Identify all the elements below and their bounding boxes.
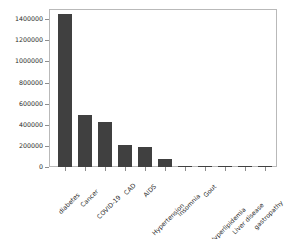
plot-area: [50, 10, 276, 167]
bar-aids: [138, 147, 152, 167]
bar-cad: [118, 145, 132, 167]
x-tick-mark: [145, 167, 146, 171]
x-tick-label-cancer: Cancer: [79, 188, 100, 209]
x-tick-mark: [205, 167, 206, 171]
x-tick-mark: [125, 167, 126, 171]
y-tick-label: 1400000: [15, 16, 43, 22]
y-tick-label: 800000: [19, 80, 43, 86]
x-tick-label-covid-19: COVID-19: [95, 194, 122, 221]
x-tick-mark: [245, 167, 246, 171]
x-tick-label-cad: CAD: [122, 182, 137, 197]
x-tick-mark: [105, 167, 106, 171]
bar-covid-19: [98, 122, 112, 167]
y-tick-label: 1200000: [15, 37, 43, 43]
x-tick-mark: [85, 167, 86, 171]
x-tick-mark: [225, 167, 226, 171]
x-tick-mark: [265, 167, 266, 171]
x-tick-label-diabetes: diabetes: [57, 191, 81, 215]
x-tick-label-aids: AIDS: [142, 183, 158, 199]
x-tick-mark: [165, 167, 166, 171]
bar-cancer: [78, 115, 92, 167]
x-tick-mark: [185, 167, 186, 171]
x-tick-label-gout: Gout: [202, 183, 218, 199]
y-tick-label: 600000: [19, 101, 43, 107]
bar-chart-figure: 0 200000 400000 600000 800000 1000000 12…: [0, 0, 289, 239]
y-tick-label: 200000: [19, 143, 43, 149]
y-tick-label: 0: [39, 164, 43, 170]
y-tick-label: 1000000: [15, 58, 43, 64]
bar-diabetes: [58, 14, 72, 167]
y-tick-label: 400000: [19, 122, 43, 128]
bar-hypertension: [158, 159, 172, 167]
y-tick-mark: [45, 167, 49, 168]
x-tick-mark: [65, 167, 66, 171]
